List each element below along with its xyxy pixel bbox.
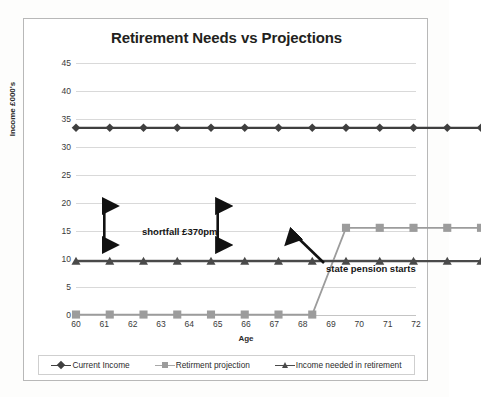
y-tick-45: 45: [49, 59, 71, 68]
legend-label-current-income: Current Income: [72, 360, 129, 370]
legend-item-current-income[interactable]: Current Income: [51, 360, 129, 370]
x-tick-65: 65: [205, 319, 231, 329]
series-layer: [76, 63, 481, 397]
chart-title: Retirement Needs vs Projections: [24, 29, 429, 46]
y-axis-title: Income £000's: [8, 49, 17, 169]
legend-item-retirement-projection[interactable]: Retirment projection: [155, 360, 250, 370]
y-tick-30: 30: [49, 143, 71, 152]
y-tick-40: 40: [49, 87, 71, 96]
y-tick-35: 35: [49, 115, 71, 124]
legend-marker-square-icon: [155, 360, 175, 370]
x-axis-title: Age: [76, 334, 416, 343]
x-tick-72: 72: [403, 319, 429, 329]
chart-frame: Retirement Needs vs Projections Income £…: [23, 18, 428, 381]
x-tick-64: 64: [176, 319, 202, 329]
y-tick-15: 15: [49, 227, 71, 236]
chart-legend: Current Income Retirment projection Inco…: [38, 355, 415, 375]
gridline-30: [76, 147, 416, 148]
x-tick-62: 62: [120, 319, 146, 329]
gridline-15: [76, 231, 416, 232]
y-tick-20: 20: [49, 199, 71, 208]
gridline-5: [76, 287, 416, 288]
y-axis-tick-labels: 45 40 35 30 25 20 15 10 5 0: [44, 63, 71, 315]
series-2: [72, 224, 481, 319]
gridline-45: [76, 63, 416, 64]
series-1: [72, 123, 481, 132]
y-tick-25: 25: [49, 171, 71, 180]
x-tick-60: 60: [63, 319, 89, 329]
y-tick-5: 5: [49, 283, 71, 292]
annotation-state-pension-label: state pension starts: [326, 263, 416, 274]
annotation-shortfall-label: shortfall £370pm: [142, 226, 218, 237]
gridline-25: [76, 175, 416, 176]
legend-marker-triangle-icon: [275, 360, 295, 370]
legend-marker-diamond-icon: [51, 360, 71, 370]
x-axis-tick-labels: 60 61 62 63 64 65 66 67 68 69 70 71 72: [76, 319, 416, 333]
gridline-10: [76, 259, 416, 260]
gridline-20: [76, 203, 416, 204]
x-tick-70: 70: [346, 319, 372, 329]
gridline-40: [76, 91, 416, 92]
legend-label-retirement-projection: Retirment projection: [176, 360, 250, 370]
y-tick-10: 10: [49, 255, 71, 264]
gridline-35: [76, 119, 416, 120]
x-axis-line: [76, 315, 416, 316]
legend-item-income-needed[interactable]: Income needed in retirement: [275, 360, 402, 370]
legend-label-income-needed: Income needed in retirement: [296, 360, 402, 370]
x-tick-71: 71: [375, 319, 401, 329]
x-tick-68: 68: [290, 319, 316, 329]
x-tick-66: 66: [233, 319, 259, 329]
x-tick-61: 61: [91, 319, 117, 329]
x-tick-63: 63: [148, 319, 174, 329]
series-3: [71, 257, 481, 265]
plot-area: [76, 63, 416, 315]
x-tick-67: 67: [261, 319, 287, 329]
x-tick-69: 69: [318, 319, 344, 329]
